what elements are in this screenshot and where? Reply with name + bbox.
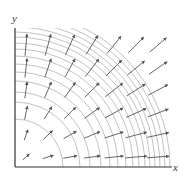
- field-arrow: [128, 37, 143, 53]
- field-arrow: [25, 82, 27, 98]
- field-arrow: [45, 82, 52, 98]
- field-arrow: [65, 59, 75, 77]
- field-arrow: [25, 106, 28, 119]
- arc: [0, 27, 155, 185]
- field-arrow: [107, 36, 121, 53]
- field-arrow: [65, 83, 76, 98]
- arc: [0, 17, 165, 185]
- field-arrow: [45, 59, 51, 78]
- field-arrow: [63, 156, 76, 158]
- field-arrow: [85, 83, 99, 97]
- y-axis-label: y: [12, 12, 17, 24]
- x-axis-label: x: [173, 161, 178, 173]
- field-arrow: [24, 130, 28, 140]
- field-arrow: [84, 156, 100, 158]
- arc: [0, 119, 63, 185]
- field-arrow: [85, 108, 100, 118]
- field-arrow: [148, 109, 169, 117]
- field-arrow: [64, 107, 76, 118]
- field-arrow: [148, 85, 167, 95]
- field-arrow: [126, 109, 146, 118]
- field-arrow: [105, 156, 124, 158]
- field-arrow: [25, 59, 27, 78]
- field-arrow: [150, 38, 167, 52]
- field-arrow: [147, 133, 168, 138]
- vector-field-diagram: [0, 0, 184, 185]
- field-arrow: [84, 132, 100, 139]
- field-arrow: [43, 155, 54, 158]
- field-arrow: [23, 154, 29, 160]
- field-arrow: [125, 156, 146, 158]
- field-arrow: [149, 62, 167, 75]
- field-arrow: [45, 34, 51, 55]
- field-arrow: [105, 132, 124, 138]
- field-arrow: [147, 156, 169, 158]
- equipotential-arcs: [0, 12, 170, 185]
